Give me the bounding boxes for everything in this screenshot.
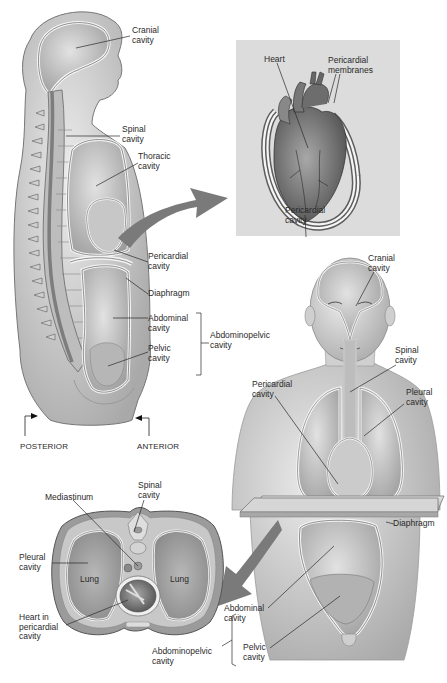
frontal-body — [232, 258, 444, 660]
label-pleural-cavity-cross-section: Pleural cavity — [19, 553, 45, 572]
label-pleural-cavity-frontal: Pleural cavity — [406, 388, 432, 407]
label-pericardial-membranes: Pericardial membranes — [328, 56, 373, 75]
label-heart: Heart — [264, 55, 285, 65]
label-diaphragm-sagittal: Diaphragm — [148, 289, 190, 299]
label-abdominopelvic-cavity-sagittal: Abdominopelvic cavity — [210, 331, 270, 350]
label-pericardial-cavity-frontal: Pericardial cavity — [252, 380, 292, 399]
label-pelvic-cavity-sagittal: Pelvic cavity — [148, 344, 171, 363]
label-abdominopelvic-cavity-frontal: Abdominopelvic cavity — [152, 647, 212, 666]
label-pelvic-cavity-frontal: Pelvic cavity — [243, 643, 266, 662]
label-diaphragm-frontal: Diaphragm — [393, 519, 435, 529]
label-heart-in-pericardial-cavity: Heart in pericardial cavity — [19, 613, 58, 642]
body-cavities-figure: Cranial cavity Spinal cavity Thoracic ca… — [0, 0, 447, 683]
label-thoracic-cavity: Thoracic cavity — [138, 152, 171, 171]
label-lung-right: Lung — [170, 575, 189, 585]
label-pericardial-cavity-sagittal: Pericardial cavity — [148, 252, 188, 271]
label-pericardial-cavity-inset: Pericardial cavity — [285, 206, 325, 225]
label-abdominal-cavity-frontal: Abdominal cavity — [224, 604, 264, 623]
sagittal-body — [14, 12, 151, 425]
label-spinal-cavity-frontal: Spinal cavity — [395, 346, 419, 365]
label-abdominal-cavity-sagittal: Abdominal cavity — [148, 314, 188, 333]
cross-section-illustration — [52, 508, 224, 635]
label-mediastinum: Mediastinum — [45, 493, 93, 503]
label-cranial-cavity-frontal: Cranial cavity — [368, 254, 395, 273]
label-lung-left: Lung — [80, 575, 99, 585]
label-posterior: POSTERIOR — [20, 442, 68, 452]
label-spinal-cavity-cross-section: Spinal cavity — [138, 481, 162, 500]
label-anterior: ANTERIOR — [137, 442, 179, 452]
label-spinal-cavity-sagittal: Spinal cavity — [122, 125, 146, 144]
label-cranial-cavity-sagittal: Cranial cavity — [132, 26, 159, 45]
